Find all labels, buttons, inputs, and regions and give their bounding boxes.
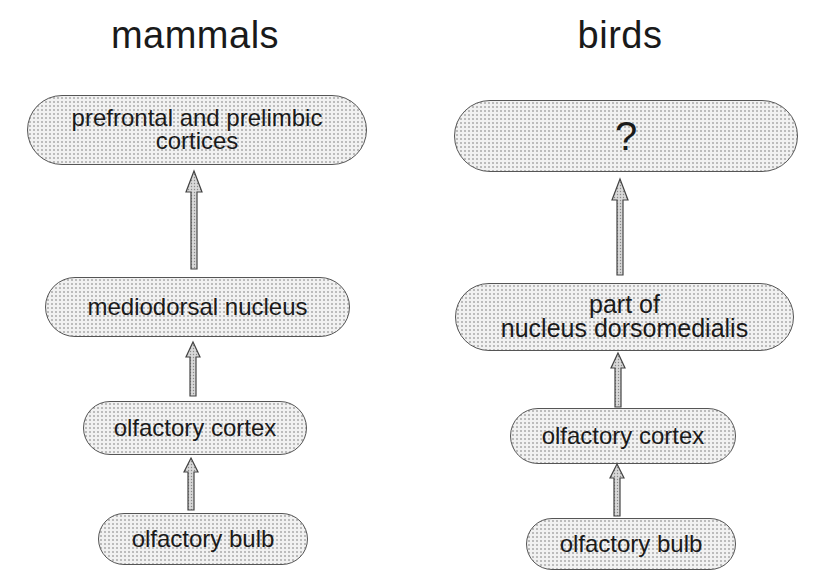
arrow-up-icon	[181, 457, 201, 511]
node-label-line: ?	[615, 117, 637, 155]
arrow-up-icon	[607, 463, 627, 517]
arrow-up-icon	[610, 178, 630, 276]
node-olfactory-bulb-mammals: olfactory bulb	[98, 513, 308, 565]
node-label-line: olfactory cortex	[542, 425, 705, 448]
title-mammals: mammals	[105, 14, 285, 57]
arrow-up-icon	[608, 352, 628, 408]
node-label-line: olfactory bulb	[560, 533, 703, 556]
node-part-of-nucleus-dorsomedialis: part of nucleus dorsomedialis	[455, 283, 794, 351]
node-label-line: mediodorsal nucleus	[87, 296, 307, 319]
node-olfactory-cortex-birds: olfactory cortex	[510, 408, 736, 464]
node-olfactory-cortex-mammals: olfactory cortex	[83, 401, 307, 455]
node-mediodorsal-nucleus: mediodorsal nucleus	[45, 277, 350, 337]
title-birds: birds	[530, 14, 710, 57]
node-unknown-target: ?	[454, 100, 798, 172]
node-label-line: olfactory cortex	[114, 417, 277, 440]
arrow-up-icon	[183, 341, 203, 397]
arrow-up-icon	[184, 170, 204, 270]
node-olfactory-bulb-birds: olfactory bulb	[526, 518, 736, 570]
node-prefrontal-prelimbic-cortices: prefrontal and prelimbic cortices	[27, 95, 367, 165]
node-label-line: olfactory bulb	[132, 528, 275, 551]
node-label-line: cortices	[156, 130, 239, 153]
node-label-line: nucleus dorsomedialis	[501, 317, 748, 341]
